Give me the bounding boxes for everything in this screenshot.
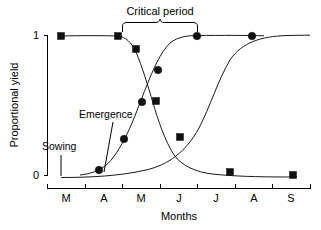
critical-period-label: Critical period (126, 5, 193, 17)
data-point-square-4 (177, 134, 184, 141)
data-point-square-6 (290, 172, 297, 179)
y-axis-line (44, 36, 48, 176)
y-axis (44, 36, 48, 176)
data-point-circle-2 (138, 98, 146, 106)
emergence-leader-line (104, 122, 113, 172)
data-point-circle-4 (193, 32, 201, 40)
chart-figure: 1 0 Proportional yield M A M J J A S Mon… (0, 0, 321, 230)
series-late-sigmoid-curve (61, 35, 310, 177)
x-tick-label-0: M (61, 192, 70, 204)
x-axis (48, 184, 311, 189)
emergence-label: Emergence (79, 108, 133, 120)
y-axis-title: Proportional yield (8, 63, 20, 148)
chart-canvas: 1 0 Proportional yield M A M J J A S Mon… (0, 0, 321, 230)
y-tick-label-top: 1 (33, 29, 39, 41)
data-point-circle-5 (248, 32, 256, 40)
data-point-circle-1 (120, 135, 128, 143)
series-yield-curve (61, 36, 297, 177)
critical-period-brace (123, 19, 198, 32)
sowing-label: Sowing (42, 140, 77, 152)
x-tick-label-5: A (250, 192, 258, 204)
data-point-square-0 (58, 33, 65, 40)
data-point-square-3 (153, 98, 160, 105)
data-point-square-5 (227, 169, 234, 176)
data-point-square-1 (115, 33, 122, 40)
x-tick-label-3: J (176, 192, 182, 204)
data-point-circle-3 (154, 66, 162, 74)
series-competition-markers (95, 32, 256, 174)
series-yield-markers (58, 33, 297, 179)
data-point-circle-0 (95, 166, 103, 174)
x-tick-label-6: S (287, 192, 294, 204)
data-point-square-2 (133, 46, 140, 53)
x-axis-title: Months (161, 210, 198, 222)
x-tick-label-4: J (213, 192, 219, 204)
y-tick-label-bottom: 0 (33, 169, 39, 181)
x-tick-label-1: A (100, 192, 108, 204)
x-tick-label-2: M (136, 192, 145, 204)
